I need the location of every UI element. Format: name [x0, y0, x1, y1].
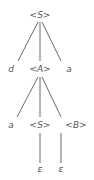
node-terminal-a-left: a: [8, 120, 14, 130]
tree-edge: [17, 77, 38, 117]
node-nonterminal-B: <B>: [65, 120, 86, 130]
tree-edge: [42, 22, 61, 61]
tree-edge: [18, 22, 38, 61]
node-terminal-a-right: a: [66, 64, 72, 74]
node-epsilon-under-B: ε: [59, 164, 64, 174]
node-epsilon-under-S: ε: [38, 164, 43, 174]
node-root-S: <S>: [30, 10, 51, 20]
tree-edges: [17, 22, 61, 163]
node-nonterminal-S-child: <S>: [30, 120, 51, 130]
node-terminal-d: d: [8, 64, 14, 74]
tree-edge: [42, 77, 61, 117]
node-nonterminal-A: <A>: [29, 64, 50, 74]
parse-tree-diagram: <S> d <A> a a <S> <B> ε ε: [0, 0, 94, 180]
tree-nodes: <S> d <A> a a <S> <B> ε ε: [8, 10, 86, 174]
